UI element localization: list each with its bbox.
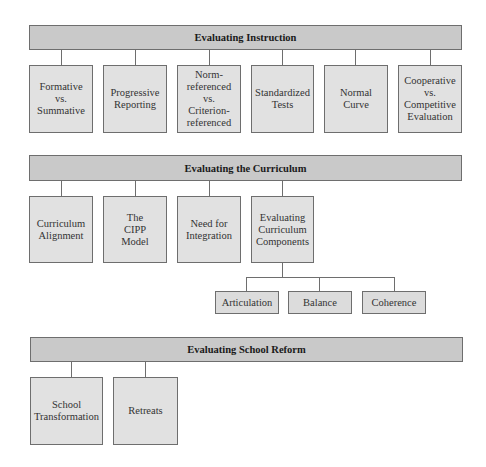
node-balance: Balance — [288, 291, 352, 314]
connector-line — [135, 50, 136, 65]
node-cooperative-vs-competitive: Cooperative vs. Competitive Evaluation — [398, 65, 462, 133]
connector-line — [61, 181, 62, 196]
section-header-evaluating-instruction: Evaluating Instruction — [29, 25, 462, 50]
node-need-for-integration: Need for Integration — [177, 196, 241, 263]
node-standardized-tests: Standardized Tests — [251, 65, 314, 133]
connector-line — [355, 50, 356, 65]
node-evaluating-curriculum-components: Evaluating Curriculum Components — [251, 196, 314, 263]
connector-line — [209, 181, 210, 196]
connector-line — [430, 50, 431, 65]
connector-line — [61, 50, 62, 65]
node-progressive-reporting: Progressive Reporting — [103, 65, 167, 133]
node-articulation: Articulation — [215, 291, 279, 314]
connector-line — [394, 277, 395, 291]
connector-line — [135, 181, 136, 196]
connector-line — [282, 50, 283, 65]
connector-line — [209, 50, 210, 65]
node-curriculum-alignment: Curriculum Alignment — [29, 196, 93, 263]
node-school-transformation: School Transformation — [30, 377, 103, 445]
node-coherence: Coherence — [362, 291, 426, 314]
connector-line — [246, 277, 395, 278]
node-normal-curve: Normal Curve — [324, 65, 388, 133]
connector-line — [246, 277, 247, 291]
node-formative-vs-summative: Formative vs. Summative — [29, 65, 93, 133]
node-cipp-model: The CIPP Model — [103, 196, 167, 263]
connector-line — [145, 362, 146, 377]
section-title: Evaluating the Curriculum — [185, 163, 307, 174]
connector-line — [319, 277, 320, 291]
node-retreats: Retreats — [113, 377, 178, 445]
section-header-evaluating-school-reform: Evaluating School Reform — [30, 337, 463, 362]
section-title: Evaluating Instruction — [195, 32, 297, 43]
connector-line — [71, 362, 72, 377]
connector-line — [282, 181, 283, 196]
connector-line — [282, 263, 283, 277]
section-title: Evaluating School Reform — [187, 344, 305, 355]
node-norm-vs-criterion-referenced: Norm- referenced vs. Criterion- referenc… — [177, 65, 241, 133]
section-header-evaluating-curriculum: Evaluating the Curriculum — [29, 155, 462, 181]
